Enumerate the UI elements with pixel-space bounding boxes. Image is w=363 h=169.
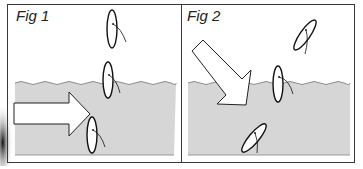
leaf-above-water [107,10,126,48]
figure-2: Fig 2 [182,5,355,163]
figure-1-label: Fig 1 [16,7,49,24]
figure-1: Fig 1 [8,5,182,163]
water-body [188,82,350,156]
figure-2-label: Fig 2 [187,7,221,24]
leaf-above-water-tilted [291,17,320,54]
illustration: Fig 1 Fig 2 [0,0,363,169]
